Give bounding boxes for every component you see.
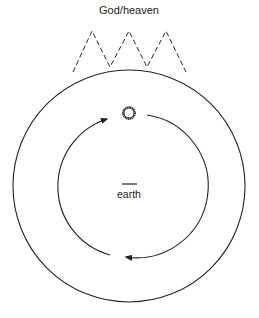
cosmology-diagram: God/heaven earth: [0, 0, 259, 318]
earth-label: earth: [117, 188, 141, 200]
cycle-arrow-right: [126, 115, 208, 258]
sun-icon: [123, 107, 135, 119]
outer-sphere: [13, 70, 245, 302]
cycle-arrow-left: [58, 119, 110, 255]
god-heaven-label: God/heaven: [99, 4, 159, 16]
heaven-dashed-peaks: [73, 31, 186, 72]
